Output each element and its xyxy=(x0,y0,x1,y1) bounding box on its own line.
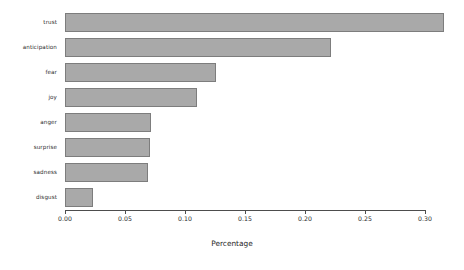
bar-row: fear xyxy=(0,60,464,85)
category-label: anger xyxy=(40,120,57,126)
bar-row: joy xyxy=(0,85,464,110)
category-label: fear xyxy=(45,70,57,76)
x-axis-tick-label: 0.10 xyxy=(178,216,192,222)
bar xyxy=(65,63,216,82)
x-axis-tick-label: 0.20 xyxy=(298,216,312,222)
x-axis-tick xyxy=(305,210,306,214)
bar-chart: trustanticipationfearjoyangersurprisesad… xyxy=(0,0,464,270)
plot-area: trustanticipationfearjoyangersurprisesad… xyxy=(0,0,464,214)
bar-row: surprise xyxy=(0,135,464,160)
x-axis-tick xyxy=(425,210,426,214)
x-axis-tick xyxy=(125,210,126,214)
bar-row: disgust xyxy=(0,185,464,210)
x-axis-tick xyxy=(185,210,186,214)
bar xyxy=(65,88,197,107)
x-axis-tick xyxy=(365,210,366,214)
category-label: disgust xyxy=(36,195,57,201)
bar xyxy=(65,113,151,132)
bar-row: trust xyxy=(0,10,464,35)
category-label: joy xyxy=(48,95,57,101)
x-axis-tick-label: 0.30 xyxy=(418,216,432,222)
x-axis-tick-label: 0.00 xyxy=(58,216,72,222)
bar-row: anger xyxy=(0,110,464,135)
bar xyxy=(65,138,150,157)
category-label: trust xyxy=(43,20,57,26)
x-axis-tick-label: 0.05 xyxy=(118,216,132,222)
x-axis-tick-label: 0.25 xyxy=(358,216,372,222)
category-label: anticipation xyxy=(23,45,57,51)
bar xyxy=(65,163,148,182)
bar xyxy=(65,13,444,32)
bar-row: anticipation xyxy=(0,35,464,60)
bar xyxy=(65,188,93,207)
x-axis-tick xyxy=(245,210,246,214)
x-axis-title: Percentage xyxy=(0,240,464,247)
category-label: sadness xyxy=(34,170,57,176)
category-label: surprise xyxy=(34,145,57,151)
x-axis-tick xyxy=(65,210,66,214)
bar-row: sadness xyxy=(0,160,464,185)
x-axis-tick-label: 0.15 xyxy=(238,216,252,222)
bar xyxy=(65,38,331,57)
